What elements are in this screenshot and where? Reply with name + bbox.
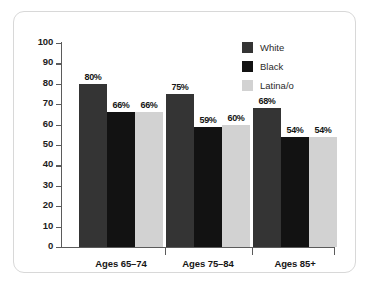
bar-white[interactable]: 68% (253, 108, 281, 247)
y-axis-tick-label: 60 (43, 118, 53, 129)
bar-value-label: 60% (227, 113, 244, 123)
x-axis-separator (165, 248, 166, 255)
y-axis-tick-label: 90 (43, 56, 53, 67)
bar-latina-o[interactable]: 54% (309, 137, 337, 247)
bar-value-label: 66% (112, 100, 129, 110)
category-label: Ages 85+ (274, 258, 315, 269)
bar-black[interactable]: 66% (107, 112, 135, 247)
y-axis-tick-label: 50 (43, 138, 53, 149)
x-axis-separator (252, 248, 253, 255)
y-axis-tick-label: 30 (43, 179, 53, 190)
bar-value-label: 54% (286, 125, 303, 135)
chart-frame: 1009080706050403020100 80%66%66%75%59%60… (13, 11, 356, 273)
y-axis-tick-label: 80 (43, 77, 53, 88)
bar-value-label: 59% (199, 115, 216, 125)
bar-latina-o[interactable]: 66% (135, 112, 163, 247)
y-axis-tick-label: 20 (43, 199, 53, 210)
y-axis-tick-label: 70 (43, 97, 53, 108)
bar-white[interactable]: 75% (166, 94, 194, 247)
legend-item[interactable]: Black (242, 60, 294, 72)
y-axis-tick-label: 10 (43, 220, 53, 231)
y-axis-tick-label: 0 (48, 240, 53, 251)
category-label: Ages 75–84 (182, 258, 233, 269)
bar-black[interactable]: 54% (281, 137, 309, 247)
bar-black[interactable]: 59% (194, 127, 222, 247)
bar-group: 80%66%66% (79, 43, 163, 247)
bar-value-label: 66% (140, 100, 157, 110)
y-axis-tick-label: 40 (43, 158, 53, 169)
bar-white[interactable]: 80% (79, 84, 107, 247)
legend-label: White (260, 42, 284, 53)
legend-label: Latina/o (260, 80, 294, 91)
category-label: Ages 65–74 (95, 258, 146, 269)
bar-latina-o[interactable]: 60% (222, 125, 250, 247)
y-axis-tick-label: 100 (38, 36, 53, 47)
bar-group: 75%59%60% (166, 43, 250, 247)
legend-item[interactable]: Latina/o (242, 79, 294, 91)
bar-value-label: 80% (84, 72, 101, 82)
legend-swatch-icon (242, 80, 253, 91)
bar-value-label: 54% (314, 125, 331, 135)
bar-value-label: 75% (171, 82, 188, 92)
x-axis-separator (334, 248, 335, 255)
legend-label: Black (260, 61, 283, 72)
chart-legend: WhiteBlackLatina/o (242, 41, 294, 98)
legend-swatch-icon (242, 61, 253, 72)
legend-swatch-icon (242, 42, 253, 53)
legend-item[interactable]: White (242, 41, 294, 53)
